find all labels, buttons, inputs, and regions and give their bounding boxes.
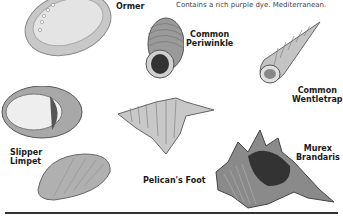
bottom-divider [5,212,338,214]
label-line: Murex [296,144,340,153]
label-line: Wentletrap [292,95,343,104]
wentletrap-shell-illustration [250,20,322,86]
ormer-shell-illustration [22,0,114,58]
label-line: Brandaris [296,153,340,162]
label-murex-brandaris: Murex Brandaris [296,144,340,162]
label-common-wentletrap: Common Wentletrap [292,86,343,104]
label-line: Common [292,86,343,95]
slipper-limpet-underside-illustration [34,150,114,202]
label-common-periwinkle: Common Periwinkle [186,30,233,48]
label-line: Common [186,30,233,39]
murex-brandaris-shell-illustration [208,122,336,212]
caption-text: Contains a rich purple dye. Mediterranea… [176,1,326,9]
periwinkle-shell-illustration [142,14,184,82]
label-pelicans-foot: Pelican's Foot [143,176,206,185]
label-ormer: Ormer [116,2,144,11]
pelicans-foot-shell-illustration [116,94,216,156]
label-line: Periwinkle [186,39,233,48]
slipper-limpet-shell-illustration [0,86,86,144]
